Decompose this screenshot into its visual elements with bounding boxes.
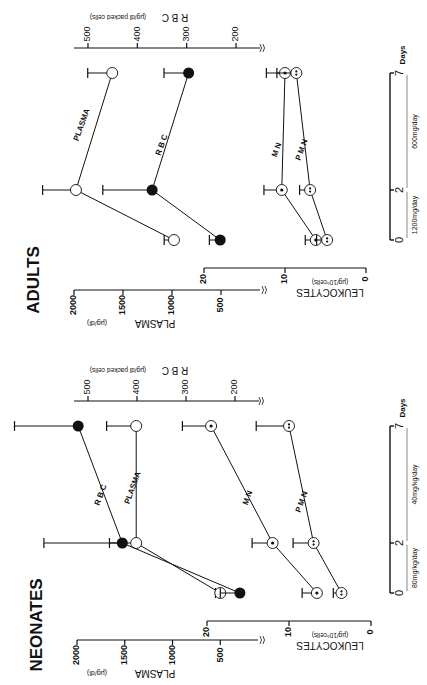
tick-label: 10 [279, 274, 289, 284]
marker-dot-icon [313, 540, 315, 542]
axis-unit: (µg/10⁹cells) [312, 278, 349, 286]
axis-unit: (µg/dl packed cells) [90, 366, 146, 374]
marker-dot-icon [340, 590, 342, 592]
tick-label: 7 [393, 70, 405, 76]
panel-title: ADULTS [24, 246, 43, 314]
plasma-axis: 200015001000500PLASMA(µg/dl) [68, 286, 266, 329]
tick-label: 2000 [68, 295, 78, 315]
tick-label: 300 [180, 379, 190, 394]
series-plasma: PLASMA [107, 421, 226, 599]
axis-label: R B C [162, 365, 189, 376]
dose-label: 80mg/kg/day [411, 547, 419, 588]
series-line [136, 426, 220, 593]
marker-dot-icon [315, 591, 318, 594]
marker-filled-circle-icon [183, 68, 194, 79]
tick-label: 300 [181, 26, 191, 41]
axis-break-icon [260, 44, 265, 52]
tick-label: 2 [393, 540, 405, 546]
marker-open-circle-icon [107, 68, 118, 79]
marker-filled-circle-icon [147, 185, 158, 196]
leukocytes-axis: 20100LEUKOCYTES(µg/10⁹cells) [201, 621, 375, 651]
tick-label: 200 [230, 26, 240, 41]
marker-open-circle-icon [131, 421, 142, 432]
marker-open-circle-icon [308, 538, 319, 549]
series-pmn: P M N [256, 421, 347, 599]
axis-label: R B C [162, 12, 189, 23]
tick-label: 20 [201, 627, 211, 637]
series-label: R B C [93, 483, 109, 507]
marker-dot-icon [313, 544, 315, 546]
marker-dot-icon [295, 70, 297, 72]
leukocytes-axis: 20100LEUKOCYTES(µg/10⁹cells) [198, 268, 370, 298]
axis-label: LEUKOCYTES [296, 287, 364, 298]
axis-unit: (µg/dl) [87, 319, 107, 327]
tick-label: 1500 [119, 645, 129, 665]
marker-dot-icon [288, 423, 290, 425]
marker-open-circle-icon [70, 185, 81, 196]
tick-label: 2000 [71, 645, 81, 665]
rbc-axis: 500400300200R B C(µg/dl packed cells) [74, 365, 264, 405]
tick-label: 500 [215, 297, 225, 312]
tick-label: 1000 [166, 295, 176, 315]
marker-dot-icon [309, 191, 311, 193]
marker-open-circle-icon [168, 235, 179, 246]
figure: ADULTS200015001000500PLASMA(µg/dl)20100L… [0, 0, 427, 685]
series-rbc: R B C [15, 421, 246, 599]
marker-dot-icon [326, 237, 328, 239]
tick-label: 7 [393, 423, 405, 429]
tick-label: 400 [132, 26, 142, 41]
axis-break-icon [259, 397, 264, 405]
marker-open-circle-icon [336, 588, 347, 599]
marker-dot-icon [288, 427, 290, 429]
axis-label: Days [398, 398, 407, 418]
axis-label: Days [398, 45, 407, 65]
axis-label: PLASMA [134, 668, 175, 679]
marker-open-circle-icon [291, 68, 302, 79]
marker-filled-circle-icon [215, 235, 226, 246]
marker-filled-circle-icon [117, 538, 128, 549]
series-pmn: P M N [277, 68, 333, 246]
tick-label: 500 [82, 26, 92, 41]
tick-label: 10 [283, 627, 293, 637]
axis-label: PLASMA [134, 318, 175, 329]
axis-unit: (µg/dl packed cells) [90, 13, 146, 21]
dose-label: 600mg/day [411, 114, 419, 149]
axis-unit: (µg/10⁹cells) [312, 631, 349, 639]
axis-break-icon [262, 286, 267, 294]
days-axis: 027Days80mg/kg/day40mg/kg/day [390, 398, 419, 596]
tick-label: 2 [393, 187, 405, 193]
tick-label: 1500 [117, 295, 127, 315]
axis-unit: (µg/dl) [87, 669, 107, 677]
marker-dot-icon [271, 541, 274, 544]
series-label: R B C [154, 133, 170, 157]
marker-dot-icon [280, 188, 283, 191]
tick-label: 20 [198, 274, 208, 284]
series-rbc: R B C [103, 68, 226, 246]
tick-label: 0 [393, 590, 405, 596]
axis-break-icon [260, 636, 265, 644]
series-label: P M N [294, 138, 310, 162]
tick-label: 400 [131, 379, 141, 394]
plasma-axis: 200015001000500PLASMA(µg/dl) [71, 636, 264, 679]
marker-filled-circle-icon [73, 421, 84, 432]
tick-label: 500 [215, 647, 225, 662]
marker-dot-icon [210, 424, 213, 427]
marker-filled-circle-icon [234, 588, 245, 599]
marker-open-circle-icon [305, 185, 316, 196]
tick-label: 1000 [167, 645, 177, 665]
series-line [78, 426, 240, 593]
series-label: PLASMA [123, 470, 143, 505]
series-label: PLASMA [72, 107, 92, 142]
tick-label: 0 [365, 629, 375, 634]
figure-canvas: ADULTS200015001000500PLASMA(µg/dl)20100L… [0, 0, 427, 685]
tick-label: 200 [229, 379, 239, 394]
dose-label: 1200mg/day [411, 195, 419, 234]
tick-label: 0 [393, 237, 405, 243]
dose-label: 40mg/kg/day [411, 464, 419, 505]
marker-dot-icon [326, 241, 328, 243]
series-mn: M N [264, 68, 321, 246]
marker-dot-icon [340, 594, 342, 596]
panel-adults: ADULTS200015001000500PLASMA(µg/dl)20100L… [24, 12, 418, 329]
panel-neonates: NEONATES200015001000500PLASMA(µg/dl)2010… [15, 365, 419, 679]
rbc-axis: 500400300200R B C(µg/dl packed cells) [74, 12, 265, 52]
